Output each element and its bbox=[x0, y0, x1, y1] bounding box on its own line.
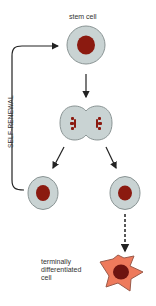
arrow-daughter-left bbox=[53, 147, 64, 168]
arrow-daughter-right bbox=[106, 147, 116, 168]
daughter-cell-left bbox=[28, 177, 58, 210]
terminal-label-line2: differentiated bbox=[41, 266, 96, 274]
terminal-label-line1: terminally bbox=[41, 258, 96, 266]
self-renewal-loop-arrow bbox=[12, 46, 58, 190]
terminal-label-line3: cell bbox=[41, 274, 96, 282]
daughter-cell-right bbox=[110, 177, 140, 210]
terminal-cell bbox=[100, 255, 143, 291]
dividing-cell bbox=[60, 106, 112, 140]
terminal-cell-label: terminally differentiated cell bbox=[41, 258, 96, 282]
nucleus bbox=[77, 36, 95, 55]
self-renewal-label: SELF-RENEWAL bbox=[7, 95, 14, 148]
stem-cell bbox=[67, 26, 105, 64]
stem-cell-label: stem cell bbox=[69, 13, 97, 21]
